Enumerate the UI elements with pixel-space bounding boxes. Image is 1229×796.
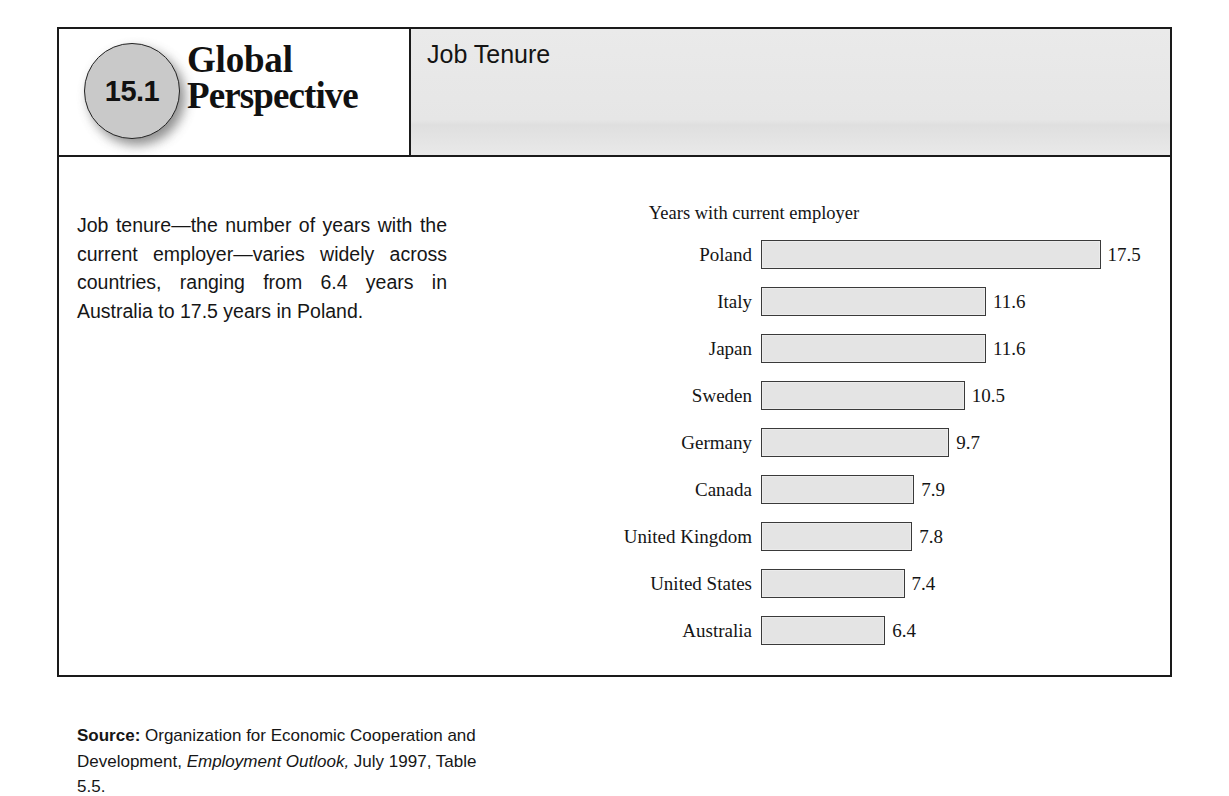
bar-category-label: Australia (489, 620, 761, 642)
chart-title: Years with current employer (489, 203, 1019, 224)
bar-wrapper: 10.5 (761, 381, 1005, 410)
header-brand-cell: 15.1 Global Perspective (59, 29, 411, 155)
global-perspective-box: 15.1 Global Perspective Job Tenure Job t… (57, 27, 1172, 677)
bar-wrapper: 7.9 (761, 475, 945, 504)
chart-row: United Kingdom7.8 (489, 513, 1149, 560)
chart-row: Australia6.4 (489, 607, 1149, 654)
brand-line-2: Perspective (187, 78, 409, 114)
chart-row: Canada7.9 (489, 466, 1149, 513)
bar (761, 475, 914, 504)
bar-category-label: Germany (489, 432, 761, 454)
box-number-badge: 15.1 (84, 43, 180, 139)
box-number: 15.1 (105, 75, 159, 108)
page-title: Job Tenure (427, 40, 550, 69)
bar-value-label: 7.4 (905, 573, 936, 595)
bar-chart: Years with current employer Poland17.5It… (489, 203, 1149, 763)
bar-category-label: Sweden (489, 385, 761, 407)
header-title-cell: Job Tenure (411, 29, 1170, 155)
bar-wrapper: 11.6 (761, 287, 1026, 316)
bar-value-label: 9.7 (949, 432, 980, 454)
chart-row: Italy11.6 (489, 278, 1149, 325)
bar (761, 428, 949, 457)
bar-value-label: 11.6 (986, 338, 1026, 360)
bar (761, 334, 986, 363)
box-body: Job tenure—the number of years with the … (59, 157, 1170, 675)
brand-title: Global Perspective (187, 42, 409, 115)
chart-row: Poland17.5 (489, 231, 1149, 278)
source-note: Source: Organization for Economic Cooper… (77, 723, 477, 796)
bar-value-label: 10.5 (965, 385, 1005, 407)
bar-wrapper: 6.4 (761, 616, 916, 645)
chart-row: Sweden10.5 (489, 372, 1149, 419)
bar-category-label: United Kingdom (489, 526, 761, 548)
bar-wrapper: 17.5 (761, 240, 1141, 269)
bar-wrapper: 9.7 (761, 428, 980, 457)
bar-category-label: Canada (489, 479, 761, 501)
bar-category-label: Poland (489, 244, 761, 266)
bar-value-label: 11.6 (986, 291, 1026, 313)
bar-value-label: 6.4 (885, 620, 916, 642)
bar-value-label: 7.9 (914, 479, 945, 501)
bar-wrapper: 7.4 (761, 569, 935, 598)
intro-paragraph: Job tenure—the number of years with the … (77, 211, 447, 326)
bar-category-label: Italy (489, 291, 761, 313)
bar-category-label: United States (489, 573, 761, 595)
bar-wrapper: 7.8 (761, 522, 943, 551)
chart-row: Japan11.6 (489, 325, 1149, 372)
bar-wrapper: 11.6 (761, 334, 1026, 363)
bar (761, 381, 965, 410)
bar-category-label: Japan (489, 338, 761, 360)
bar (761, 522, 912, 551)
box-header: 15.1 Global Perspective Job Tenure (59, 29, 1170, 157)
chart-row: Germany9.7 (489, 419, 1149, 466)
source-label: Source: (77, 726, 140, 745)
chart-row: United States7.4 (489, 560, 1149, 607)
bar (761, 287, 986, 316)
brand-line-1: Global (187, 42, 409, 78)
bar (761, 616, 885, 645)
chart-rows: Poland17.5Italy11.6Japan11.6Sweden10.5Ge… (489, 231, 1149, 654)
source-publication: Employment Outlook, (187, 752, 350, 771)
bar (761, 240, 1101, 269)
bar-value-label: 7.8 (912, 526, 943, 548)
bar (761, 569, 905, 598)
bar-value-label: 17.5 (1101, 244, 1141, 266)
